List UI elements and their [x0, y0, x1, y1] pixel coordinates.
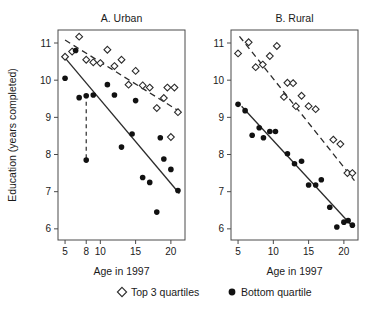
point-bottom-quartile-rural-13: [327, 204, 333, 210]
point-bottom-quartile-urban-3: [83, 93, 89, 99]
point-bottom-quartile-urban-17: [158, 135, 164, 141]
y-tick-label-rural-2: 8: [218, 149, 224, 160]
point-top-quartiles-rural-10: [305, 103, 312, 110]
x-axis-label-rural: Age in 1997: [266, 265, 322, 277]
point-top-quartiles-urban-8: [118, 56, 125, 63]
point-top-quartiles-urban-13: [153, 105, 160, 112]
point-bottom-quartile-rural-2: [249, 132, 255, 138]
point-top-quartiles-rural-9: [298, 92, 305, 99]
point-bottom-quartile-rural-9: [299, 158, 305, 164]
point-bottom-quartile-rural-14: [334, 224, 340, 230]
y-tick-label-urban-1: 7: [45, 186, 51, 197]
point-top-quartiles-urban-9: [125, 81, 132, 88]
point-bottom-quartile-rural-4: [261, 135, 267, 141]
point-top-quartiles-urban-0: [62, 53, 69, 60]
x-tick-label-rural-2: 15: [303, 246, 315, 257]
y-tick-label-urban-3: 9: [45, 112, 51, 123]
x-tick-label-urban-1: 8: [83, 246, 89, 257]
point-top-quartiles-urban-18: [167, 134, 174, 141]
point-top-quartiles-urban-17: [175, 109, 182, 116]
y-tick-label-urban-2: 8: [45, 149, 51, 160]
point-bottom-quartile-rural-8: [292, 161, 298, 167]
point-bottom-quartile-rural-17: [350, 222, 356, 228]
y-tick-label-rural-0: 6: [218, 223, 224, 234]
point-top-quartiles-urban-6: [104, 46, 111, 53]
y-tick-label-urban-0: 6: [45, 223, 51, 234]
point-bottom-quartile-rural-1: [242, 108, 248, 114]
point-top-quartiles-rural-16: [349, 170, 356, 177]
x-tick-label-urban-4: 20: [165, 246, 177, 257]
x-tick-label-rural-0: 5: [235, 246, 241, 257]
panel-title-rural: B. Rural: [276, 12, 314, 24]
point-bottom-quartile-urban-8: [83, 157, 89, 163]
x-tick-label-urban-0: 5: [62, 246, 68, 257]
y-tick-label-urban-4: 10: [40, 75, 52, 86]
x-tick-label-urban-3: 15: [130, 246, 142, 257]
point-top-quartiles-rural-0: [235, 50, 242, 57]
point-bottom-quartile-urban-5: [105, 82, 111, 88]
y-axis-label: Education (years completed): [6, 68, 18, 202]
fit-line-rural-1: [242, 106, 353, 227]
panel-urban: A. Urban6789101158101520Age in 1997: [40, 12, 185, 277]
point-bottom-quartile-rural-0: [235, 102, 241, 108]
point-bottom-quartile-rural-11: [313, 182, 319, 188]
point-bottom-quartile-urban-1: [73, 48, 79, 54]
point-top-quartiles-urban-10: [132, 67, 139, 74]
x-axis-label-urban: Age in 1997: [93, 265, 149, 277]
point-bottom-quartile-urban-16: [175, 188, 181, 194]
panel-rural: B. Rural678910115101520Age in 1997: [213, 12, 358, 277]
point-top-quartiles-rural-11: [312, 106, 319, 113]
point-bottom-quartile-urban-12: [147, 180, 153, 186]
point-top-quartiles-urban-15: [164, 84, 171, 91]
point-top-quartiles-rural-7: [290, 80, 297, 87]
x-tick-label-rural-1: 10: [268, 246, 280, 257]
point-top-quartiles-rural-5: [273, 43, 280, 50]
point-bottom-quartile-urban-7: [133, 98, 139, 104]
point-bottom-quartile-rural-7: [285, 151, 291, 157]
x-tick-label-rural-3: 20: [338, 246, 350, 257]
point-bottom-quartile-urban-14: [161, 156, 167, 162]
point-bottom-quartile-urban-4: [90, 92, 96, 98]
point-top-quartiles-urban-7: [111, 63, 118, 70]
point-bottom-quartile-rural-6: [273, 129, 279, 135]
panel-title-urban: A. Urban: [101, 12, 143, 24]
y-tick-label-rural-5: 11: [214, 38, 225, 49]
point-bottom-quartile-rural-12: [319, 177, 325, 183]
fit-line-urban-1: [65, 58, 179, 194]
point-top-quartiles-urban-11: [139, 82, 146, 89]
y-tick-label-rural-4: 10: [213, 75, 225, 86]
point-bottom-quartile-urban-6: [112, 92, 118, 98]
y-tick-label-rural-3: 9: [218, 112, 224, 123]
x-tick-label-urban-2: 10: [95, 246, 107, 257]
point-top-quartiles-rural-4: [266, 53, 273, 60]
legend: Top 3 quartilesBottom quartile: [117, 286, 311, 298]
point-top-quartiles-urban-16: [171, 84, 178, 91]
point-top-quartiles-rural-12: [293, 103, 300, 110]
point-bottom-quartile-rural-3: [256, 125, 262, 131]
legend-diamond-open-icon: [117, 287, 126, 296]
legend-circle-filled-icon: [229, 289, 236, 296]
point-top-quartiles-urban-2: [76, 33, 83, 40]
point-top-quartiles-urban-4: [90, 59, 97, 66]
legend-label-top-quartiles: Top 3 quartiles: [131, 286, 199, 298]
point-bottom-quartile-urban-11: [140, 175, 146, 181]
point-top-quartiles-rural-2: [252, 64, 259, 71]
point-top-quartiles-rural-13: [330, 136, 337, 143]
point-bottom-quartile-rural-5: [267, 129, 273, 135]
point-top-quartiles-rural-14: [337, 141, 344, 148]
point-bottom-quartile-urban-15: [168, 167, 174, 173]
point-bottom-quartile-urban-9: [119, 144, 125, 150]
point-top-quartiles-urban-5: [97, 60, 104, 67]
point-bottom-quartile-urban-13: [154, 209, 160, 215]
figure-root: A. Urban6789101158101520Age in 1997B. Ru…: [0, 0, 388, 312]
point-bottom-quartile-rural-10: [306, 182, 312, 188]
point-bottom-quartile-urban-0: [62, 76, 68, 82]
point-bottom-quartile-urban-10: [129, 131, 135, 137]
point-top-quartiles-urban-3: [83, 56, 90, 63]
point-top-quartiles-urban-12: [146, 84, 153, 91]
point-bottom-quartile-urban-2: [76, 95, 82, 101]
y-tick-label-urban-5: 11: [41, 38, 52, 49]
y-tick-label-rural-1: 7: [218, 186, 224, 197]
point-bottom-quartile-rural-16: [345, 218, 351, 224]
legend-label-bottom-quartile: Bottom quartile: [241, 286, 312, 298]
